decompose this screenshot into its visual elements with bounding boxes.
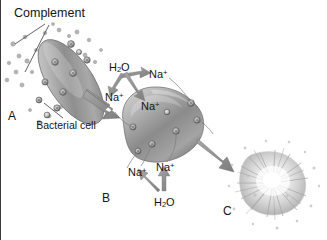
lysed-cell-c [228, 140, 320, 230]
complement-label: Complement [14, 6, 85, 20]
water-label-top-o: O [121, 61, 130, 73]
sodium-label-bottom-right-text: Na [156, 161, 170, 173]
water-label-bottom-h: H [154, 196, 162, 208]
water-label-bottom: H2O [154, 196, 175, 210]
arrow-b-to-c [197, 139, 234, 172]
water-label-top-h: H [109, 61, 117, 73]
sodium-label-bottom-left-text: Na [128, 166, 142, 178]
sodium-label-bottom-right-charge: + [170, 161, 175, 170]
sodium-label-bottom-left: Na+ [128, 166, 147, 178]
bacterial-cell-label: Bacterial cell [34, 120, 98, 132]
water-label-bottom-o: O [166, 196, 175, 208]
figure-panel: Complement Bacterial cell A B C H2O Na+ … [0, 0, 327, 240]
panel-c-label: C [223, 205, 232, 218]
sodium-label-bottom-left-charge: + [142, 166, 147, 175]
water-label-top: H2O [109, 61, 130, 75]
sodium-label-top-right-charge: + [163, 68, 168, 77]
sodium-label-left: Na+ [105, 91, 124, 103]
sodium-label-bottom-right: Na+ [156, 161, 175, 173]
sodium-label-on-cell-charge: + [155, 100, 160, 109]
sodium-label-left-text: Na [105, 91, 119, 103]
sodium-label-top-right-text: Na [149, 68, 163, 80]
sodium-label-top-right: Na+ [149, 68, 168, 80]
sodium-label-on-cell-text: Na [141, 100, 155, 112]
panel-b-label: B [102, 192, 110, 205]
sodium-label-on-cell: Na+ [141, 100, 160, 112]
panel-a-label: A [8, 110, 16, 123]
sodium-label-left-charge: + [119, 91, 124, 100]
